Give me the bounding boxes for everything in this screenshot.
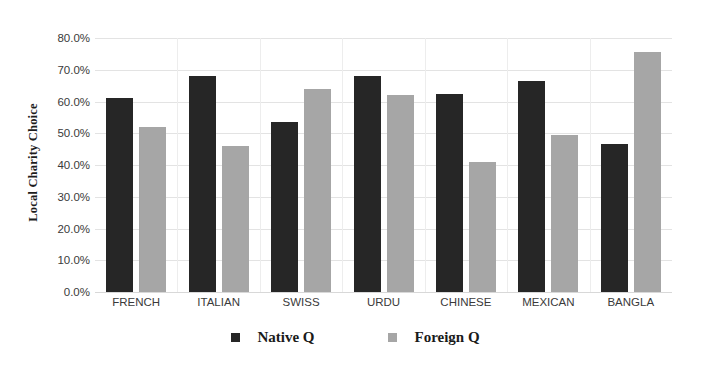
legend-item[interactable]: Foreign Q xyxy=(388,329,479,346)
y-axis-tick-label: 40.0% xyxy=(36,159,90,171)
bar-group xyxy=(189,38,249,292)
y-axis-tick-label: 20.0% xyxy=(36,223,90,235)
bar-group xyxy=(106,38,166,292)
y-axis-tick-label: 30.0% xyxy=(36,191,90,203)
y-axis-tick-labels: 80.0%70.0%60.0%50.0%40.0%30.0%20.0%10.0%… xyxy=(36,0,90,373)
category-separator xyxy=(425,38,426,292)
bar-foreign[interactable] xyxy=(469,162,496,292)
bar-foreign[interactable] xyxy=(139,127,166,292)
chart-legend: Native QForeign Q xyxy=(0,329,711,346)
bar-group xyxy=(518,38,578,292)
bar-native[interactable] xyxy=(518,81,545,292)
x-axis-category-label: ITALIAN xyxy=(177,296,259,308)
legend-item[interactable]: Native Q xyxy=(231,329,314,346)
x-axis-category-label: URDU xyxy=(342,296,424,308)
y-axis-tick-label: 70.0% xyxy=(36,64,90,76)
bar-chart: Local Charity Choice 80.0%70.0%60.0%50.0… xyxy=(0,0,711,373)
x-axis-category-label: MEXICAN xyxy=(507,296,589,308)
bar-group xyxy=(436,38,496,292)
y-axis-tick-label: 80.0% xyxy=(36,32,90,44)
category-separator xyxy=(507,38,508,292)
bar-native[interactable] xyxy=(189,76,216,292)
bar-native[interactable] xyxy=(601,144,628,292)
y-axis-tick-label: 0.0% xyxy=(36,286,90,298)
bar-foreign[interactable] xyxy=(551,135,578,292)
axis-baseline xyxy=(95,292,672,293)
bar-foreign[interactable] xyxy=(634,52,661,292)
legend-swatch-icon xyxy=(388,333,397,342)
bar-foreign[interactable] xyxy=(387,95,414,292)
x-axis-category-label: BANGLA xyxy=(590,296,672,308)
bar-foreign[interactable] xyxy=(222,146,249,292)
bar-native[interactable] xyxy=(436,94,463,292)
y-axis-tick-label: 10.0% xyxy=(36,254,90,266)
bar-group xyxy=(601,38,661,292)
y-axis-tick-label: 60.0% xyxy=(36,96,90,108)
category-separator xyxy=(342,38,343,292)
x-axis-category-label: CHINESE xyxy=(425,296,507,308)
bar-group xyxy=(271,38,331,292)
x-axis-category-labels: FRENCHITALIANSWISSURDUCHINESEMEXICANBANG… xyxy=(95,294,672,318)
bar-foreign[interactable] xyxy=(304,89,331,292)
bar-native[interactable] xyxy=(354,76,381,292)
legend-swatch-icon xyxy=(231,333,240,342)
category-separator xyxy=(260,38,261,292)
x-axis-category-label: FRENCH xyxy=(95,296,177,308)
plot-area xyxy=(95,38,672,292)
y-axis-tick-label: 50.0% xyxy=(36,127,90,139)
bar-native[interactable] xyxy=(106,98,133,292)
legend-label: Foreign Q xyxy=(414,329,479,346)
legend-label: Native Q xyxy=(257,329,314,346)
x-axis-category-label: SWISS xyxy=(260,296,342,308)
category-separator xyxy=(177,38,178,292)
category-separator xyxy=(590,38,591,292)
bar-group xyxy=(354,38,414,292)
bar-native[interactable] xyxy=(271,122,298,292)
